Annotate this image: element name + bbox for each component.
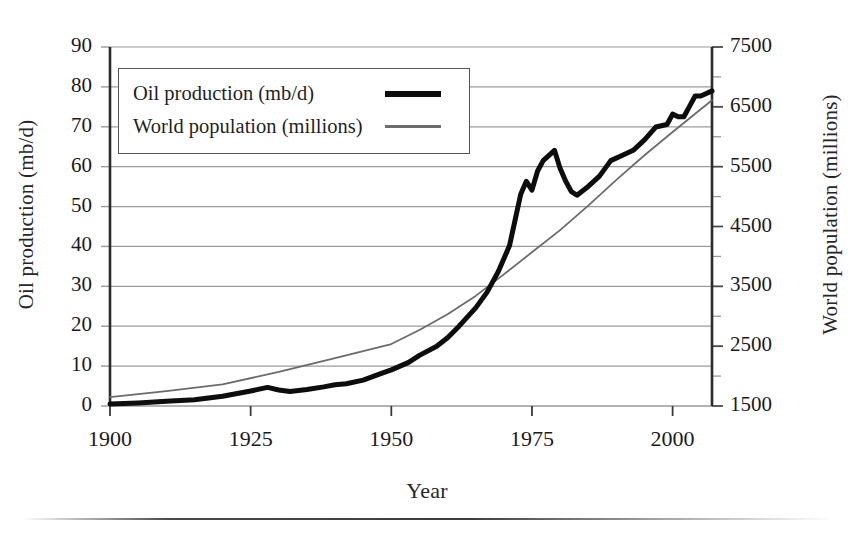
right-axis-ticks <box>712 47 723 406</box>
y-axis-right-tick-label: 2500 <box>730 332 820 357</box>
left-axis-ticks <box>101 47 110 406</box>
legend-item-oil-production: Oil production (mb/d) <box>133 77 469 110</box>
y-axis-left-tick-label: 50 <box>30 193 92 218</box>
y-axis-left-tick-label: 0 <box>30 392 92 417</box>
y-axis-left-tick-label: 30 <box>30 272 92 297</box>
x-axis-tick-label: 1950 <box>346 426 436 452</box>
y-axis-right-tick-label: 3500 <box>730 272 820 297</box>
oil-production-population-chart: Oil production (mb/d) World population (… <box>0 0 854 536</box>
legend-label-oil-production: Oil production (mb/d) <box>133 82 385 105</box>
y-axis-left-tick-label: 10 <box>30 352 92 377</box>
y-axis-right-tick-label: 1500 <box>730 392 820 417</box>
legend: Oil production (mb/d) World population (… <box>118 68 470 154</box>
y-axis-left-tick-label: 90 <box>30 33 92 58</box>
y-axis-left-tick-label: 60 <box>30 153 92 178</box>
y-axis-left-tick-label: 20 <box>30 312 92 337</box>
y-axis-left-tick-label: 40 <box>30 232 92 257</box>
legend-item-world-population: World population (millions) <box>133 110 469 143</box>
y-axis-right-tick-label: 5500 <box>730 153 820 178</box>
y-axis-right-tick-label: 7500 <box>730 33 820 58</box>
x-axis-tick-label: 2000 <box>628 426 718 452</box>
x-axis-ticks <box>110 406 673 416</box>
x-axis-tick-label: 1975 <box>487 426 577 452</box>
legend-swatch-world-population <box>385 125 447 127</box>
legend-swatch-oil-production <box>385 91 447 97</box>
legend-label-world-population: World population (millions) <box>133 115 385 138</box>
x-axis-tick-label: 1925 <box>206 426 296 452</box>
y-axis-right-tick-label: 6500 <box>730 93 820 118</box>
y-axis-left-tick-label: 70 <box>30 113 92 138</box>
x-axis-tick-label: 1900 <box>65 426 155 452</box>
footer-divider <box>22 518 832 520</box>
y-axis-left-tick-label: 80 <box>30 73 92 98</box>
y-axis-right-tick-label: 4500 <box>730 213 820 238</box>
